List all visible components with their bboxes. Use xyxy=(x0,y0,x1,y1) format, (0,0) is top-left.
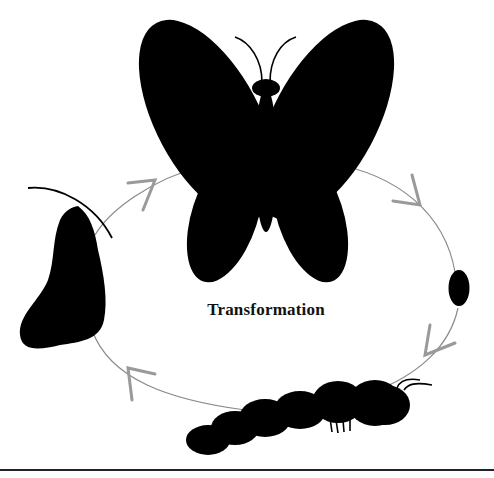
chrysalis-icon xyxy=(20,188,112,349)
life-cycle-diagram: Transformation xyxy=(0,0,494,478)
diagram-title: Transformation xyxy=(186,300,346,320)
egg-icon xyxy=(449,270,470,306)
arrow-pupa-to-butterfly xyxy=(128,180,155,210)
caterpillar-icon xyxy=(186,379,432,455)
butterfly-icon xyxy=(110,0,422,292)
arrow-butterfly-to-egg xyxy=(393,175,420,205)
arrow-caterpillar-to-pupa xyxy=(128,368,155,400)
